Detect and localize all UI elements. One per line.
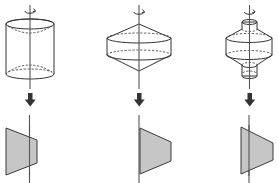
figure-3 [226,5,273,183]
down-arrow-icon [134,93,145,107]
figure-1 [6,5,54,183]
down-arrow-icon [25,93,36,107]
figure-2 [107,5,171,183]
down-arrow-icon [244,93,255,107]
cross-section-trapezoid [140,128,171,174]
cross-section-trapezoid [6,128,37,175]
cross-section-trapezoid [241,127,273,174]
solids-of-revolution-diagram [0,0,278,183]
